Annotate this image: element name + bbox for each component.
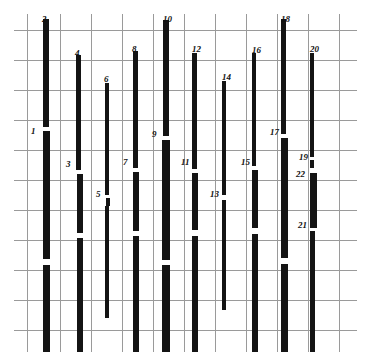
bar-segment	[192, 53, 197, 169]
bar-label: 8	[132, 45, 137, 54]
bar-label: 6	[104, 75, 109, 84]
bar-label: 4	[75, 49, 80, 58]
bar-segment	[76, 55, 81, 170]
bar-segment	[162, 265, 170, 352]
bar-label: 12	[192, 45, 201, 54]
grid-line-vertical	[122, 14, 123, 352]
ideogram-figure: 12345678910111213141516171819202122	[0, 0, 371, 362]
bar-segment	[133, 172, 139, 231]
bar-segment	[43, 131, 50, 259]
bar-label: 20	[310, 45, 319, 54]
grid-line-vertical	[27, 14, 28, 352]
grid-line-horizontal	[14, 90, 357, 91]
grid-line-vertical	[184, 14, 185, 352]
bar-segment	[77, 174, 83, 233]
bar-segment	[281, 19, 286, 134]
grid-line-horizontal	[14, 120, 357, 121]
grid-line-vertical	[60, 14, 61, 352]
grid-line-horizontal	[14, 180, 357, 181]
bar-label: 13	[210, 190, 219, 199]
bar-segment	[252, 234, 258, 352]
grid-line-vertical	[246, 14, 247, 352]
grid-line-horizontal	[14, 300, 357, 301]
grid-line-vertical	[91, 14, 92, 352]
bar-label: 14	[222, 73, 231, 82]
bar-label: 21	[298, 221, 307, 230]
grid-line-horizontal	[14, 210, 357, 211]
bar-label: 3	[66, 160, 71, 169]
bar-segment	[252, 53, 256, 166]
bar-label: 9	[152, 130, 157, 139]
grid-line-horizontal	[14, 270, 357, 271]
bar-label: 1	[31, 127, 36, 136]
grid-line-horizontal	[14, 30, 357, 31]
bar-segment	[310, 53, 314, 157]
bar-label: 16	[252, 46, 261, 55]
bar-label: 10	[163, 15, 172, 24]
bar-segment	[133, 236, 139, 352]
bar-segment	[43, 19, 49, 127]
bar-label: 11	[181, 158, 190, 167]
bar-segment	[163, 20, 169, 136]
grid-line-horizontal	[14, 240, 357, 241]
bar-segment	[222, 81, 226, 195]
bar-segment	[310, 231, 315, 352]
bar-segment	[105, 83, 109, 195]
bar-label: 17	[270, 128, 279, 137]
grid-line-vertical	[339, 14, 340, 352]
bar-label: 2	[42, 15, 47, 24]
bar-label: 19	[299, 153, 308, 162]
grid-line-vertical	[153, 14, 154, 352]
bar-label: 15	[241, 158, 250, 167]
bar-segment	[310, 173, 317, 228]
grid-line-vertical	[308, 14, 309, 352]
bar-label: 18	[281, 15, 290, 24]
bar-segment	[222, 200, 226, 310]
bar-label: 7	[123, 158, 128, 167]
bar-segment	[105, 206, 109, 318]
bar-segment	[252, 170, 258, 228]
bar-segment	[162, 140, 170, 260]
bar-label: 5	[96, 190, 101, 199]
grid-line-horizontal	[14, 60, 357, 61]
grid-line-vertical	[215, 14, 216, 352]
bar-segment	[281, 138, 288, 258]
bar-segment	[192, 236, 198, 352]
grid-line-horizontal	[14, 150, 357, 151]
grid-line-vertical	[277, 14, 278, 352]
bar-segment	[106, 198, 110, 206]
bar-segment	[133, 51, 138, 168]
grid-line-horizontal	[14, 330, 357, 331]
bar-segment	[281, 264, 288, 352]
bar-segment	[77, 238, 83, 352]
bar-label: 22	[296, 170, 305, 179]
bar-segment	[43, 265, 50, 352]
bar-segment	[192, 173, 198, 230]
bar-segment	[310, 160, 314, 168]
